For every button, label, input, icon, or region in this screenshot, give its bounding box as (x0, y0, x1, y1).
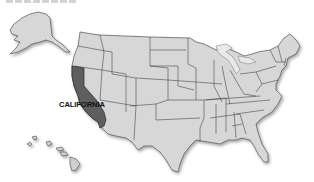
us-map (0, 0, 314, 182)
hawaii (27, 136, 80, 171)
alaska (10, 12, 70, 54)
state-label-california: CALIFORNIA (59, 100, 105, 109)
conterminous-us (72, 32, 300, 172)
